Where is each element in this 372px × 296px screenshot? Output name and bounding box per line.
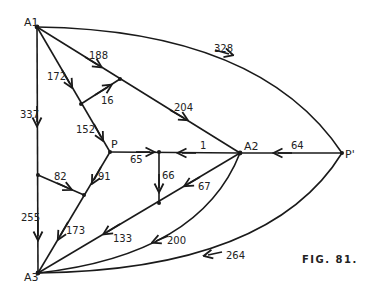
- arrow-133-icon: [107, 224, 120, 232]
- label-64: 64: [291, 140, 304, 151]
- label-188: 188: [89, 50, 108, 61]
- arrow-82-icon: [57, 183, 68, 188]
- label-82: 82: [54, 171, 67, 182]
- junction-65: [157, 150, 161, 154]
- label-a1: A1: [24, 16, 39, 29]
- junction-172: [79, 102, 83, 106]
- edge-p-a2: [110, 152, 240, 153]
- label-a2: A2: [244, 140, 259, 153]
- label-133: 133: [113, 233, 132, 244]
- label-204: 204: [174, 102, 193, 113]
- edge-a1-a3: [37, 27, 38, 273]
- label-1: 1: [200, 140, 206, 151]
- network-flow-diagram: A1 A2 A3 P P' 328 188 172 16 204 337 152…: [0, 0, 372, 296]
- label-328: 328: [214, 43, 233, 54]
- edge-pprime-a3: [38, 153, 342, 273]
- label-337: 337: [20, 109, 39, 120]
- figure-caption: FIG. 81.: [302, 254, 358, 265]
- label-67: 67: [198, 181, 211, 192]
- junction-337: [36, 173, 40, 177]
- label-152: 152: [76, 124, 95, 135]
- label-a3: A3: [24, 271, 39, 284]
- label-91: 91: [98, 171, 111, 182]
- arrow-264-icon: [208, 252, 222, 255]
- label-pprime: P': [345, 148, 355, 161]
- junction-91: [82, 193, 86, 197]
- label-255: 255: [21, 212, 40, 223]
- label-65: 65: [130, 154, 143, 165]
- label-66: 66: [162, 170, 175, 181]
- label-172: 172: [47, 71, 66, 82]
- label-264: 264: [226, 250, 245, 261]
- junction-66: [157, 201, 161, 205]
- label-p: P: [111, 138, 118, 151]
- edge-a1-a2: [37, 27, 240, 153]
- label-200: 200: [167, 235, 186, 246]
- arrow-16-icon: [95, 87, 108, 95]
- node-pprime: [340, 151, 344, 155]
- label-173: 173: [66, 225, 85, 236]
- label-16: 16: [101, 95, 114, 106]
- junction-188: [118, 77, 122, 81]
- node-a2: [238, 151, 243, 156]
